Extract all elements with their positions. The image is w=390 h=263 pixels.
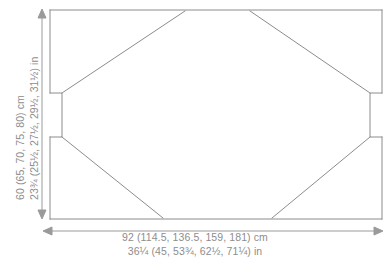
diagonal-top-left: [62, 11, 185, 93]
diagonal-top-right: [250, 11, 370, 93]
height-dimension-label-inches: 23¾ (25½, 27½, 29½, 31½) in: [28, 57, 40, 200]
schematic-diagram: 92 (114.5, 136.5, 159, 181) cm 36¼ (45, …: [0, 0, 390, 263]
height-arrow-head-top: [38, 9, 46, 18]
schematic-drawing: [0, 0, 390, 263]
notch-right: [370, 93, 382, 137]
garment-outline: [50, 10, 382, 219]
width-dimension-label-inches: 36¼ (45, 53¾, 62½, 71¼) in: [0, 245, 390, 257]
notch-left: [50, 93, 62, 137]
height-arrow-head-bottom: [38, 210, 46, 219]
diagonal-bottom-right: [272, 137, 370, 218]
diagonal-bottom-left: [62, 137, 163, 218]
width-dimension-label-cm: 92 (114.5, 136.5, 159, 181) cm: [0, 231, 390, 243]
height-dimension-label-cm: 60 (65, 70, 75, 80) cm: [14, 95, 26, 200]
